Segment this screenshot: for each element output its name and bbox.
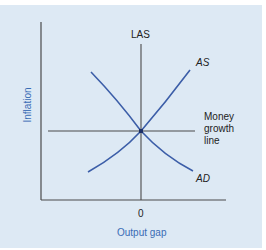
las-label: LAS [131, 29, 150, 40]
y-axis-title: Inflation [22, 87, 33, 122]
as-label: AS [196, 57, 209, 68]
money-growth-label-line1: Money [204, 111, 234, 122]
x-axis-title: Output gap [117, 227, 166, 238]
ad-label: AD [196, 173, 210, 184]
equilibrium-point [139, 129, 143, 133]
x-tick-zero: 0 [138, 208, 144, 219]
money-growth-label-line3: line [204, 135, 220, 146]
money-growth-label-line2: growth [204, 123, 234, 134]
